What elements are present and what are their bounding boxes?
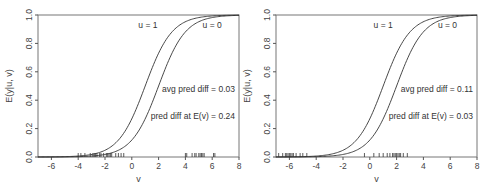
x-tick-label: 0: [129, 161, 134, 171]
y-axis-label: E(y|u, v): [4, 69, 14, 102]
x-tick-label: 8: [475, 161, 480, 171]
y-tick-label: 0.2: [262, 122, 272, 134]
series-label: u = 0: [438, 20, 457, 30]
y-tick-label: 0.8: [24, 37, 34, 49]
x-tick-label: 6: [448, 161, 453, 171]
y-tick-label: 0.0: [262, 151, 272, 163]
series-label: u = 0: [203, 20, 222, 30]
x-tick-label: 0: [367, 161, 372, 171]
x-tick-label: -4: [312, 161, 320, 171]
annotation-text: pred diff at E(v) = 0.03: [389, 111, 473, 121]
x-tick-label: -6: [48, 161, 56, 171]
x-tick-label: 2: [156, 161, 161, 171]
right-panel: -6-4-202468v0.00.20.40.60.81.0E(y|u, v)u…: [242, 9, 480, 184]
annotation-text: avg pred diff = 0.03: [162, 84, 235, 94]
x-tick-label: 4: [183, 161, 188, 171]
annotation-text: pred diff at E(v) = 0.24: [151, 111, 235, 121]
y-tick-label: 1.0: [262, 9, 272, 21]
x-tick-label: -4: [74, 161, 82, 171]
chart-figure: -6-4-202468v0.00.20.40.60.81.0E(y|u, v)u…: [0, 0, 493, 186]
y-tick-label: 0.0: [24, 151, 34, 163]
y-axis-label: E(y|u, v): [242, 69, 252, 102]
left-panel: -6-4-202468v0.00.20.40.60.81.0E(y|u, v)u…: [4, 9, 242, 184]
x-tick-label: 6: [210, 161, 215, 171]
x-tick-label: -2: [101, 161, 109, 171]
x-axis-label: v: [136, 174, 141, 184]
x-tick-label: -2: [339, 161, 347, 171]
y-tick-label: 0.6: [24, 66, 34, 78]
y-tick-label: 0.2: [24, 122, 34, 134]
x-tick-label: -6: [286, 161, 294, 171]
series-label: u = 1: [138, 20, 157, 30]
annotation-text: avg pred diff = 0.11: [401, 84, 473, 94]
series-label: u = 1: [374, 20, 393, 30]
x-axis-label: v: [374, 174, 379, 184]
y-tick-label: 0.4: [24, 94, 34, 106]
x-tick-label: 2: [394, 161, 399, 171]
x-tick-label: 4: [421, 161, 426, 171]
x-tick-label: 8: [237, 161, 242, 171]
y-tick-label: 0.8: [262, 37, 272, 49]
y-tick-label: 0.4: [262, 94, 272, 106]
y-tick-label: 0.6: [262, 66, 272, 78]
y-tick-label: 1.0: [24, 9, 34, 21]
